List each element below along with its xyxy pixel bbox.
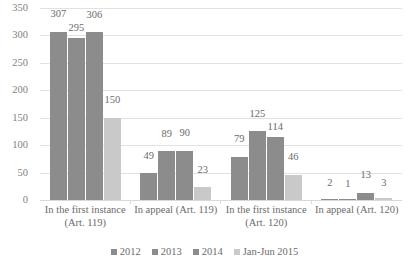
bar-slot: 3 [375,8,392,200]
bar-2014[interactable] [357,193,374,200]
legend-item-jan-jun-2015[interactable]: Jan-Jun 2015 [234,247,299,258]
x-axis-label-1: In appeal (Art. 119) [131,204,222,234]
bar-value-label: 306 [86,10,102,21]
bar-value-label: 1 [345,179,350,190]
bar-group: 49899023 [131,8,222,200]
legend-swatch-icon [111,249,117,255]
y-axis-tick-250: 250 [0,58,28,69]
bar-2013[interactable] [68,38,85,200]
legend-label: Jan-Jun 2015 [243,247,299,258]
bar-2014[interactable] [86,32,103,200]
bar-slot: 23 [194,8,211,200]
bar-jan-jun-2015[interactable] [285,175,302,200]
plot-area: 350300250200150100500 307295306150498990… [40,8,402,200]
bar-slot: 46 [285,8,302,200]
y-axis-tick-200: 200 [0,85,28,96]
x-axis-label-0: In the first instance (Art. 119) [40,204,131,234]
bar-group: 307295306150 [40,8,131,200]
legend-item-2013[interactable]: 2013 [152,247,182,258]
y-axis-tick-350: 350 [0,3,28,14]
bar-value-label: 46 [288,152,299,163]
bar-slot: 295 [68,8,85,200]
bar-2012[interactable] [231,157,248,200]
bar-slot: 2 [321,8,338,200]
bar-value-label: 89 [162,129,173,140]
bar-jan-jun-2015[interactable] [104,118,121,200]
bar-value-label: 125 [249,109,265,120]
legend-item-2012[interactable]: 2012 [111,247,141,258]
legend-swatch-icon [152,249,158,255]
bar-group: 21133 [312,8,403,200]
chart-legend: 201220132014Jan-Jun 2015 [0,247,409,258]
bar-slot: 114 [267,8,284,200]
bar-jan-jun-2015[interactable] [194,187,211,200]
bar-jan-jun-2015[interactable] [375,198,392,200]
bar-slot: 1 [339,8,356,200]
bar-groups: 30729530615049899023791251144621133 [40,8,402,200]
bar-slot: 13 [357,8,374,200]
bar-value-label: 307 [50,9,66,20]
legend-label: 2013 [161,247,182,258]
y-axis-tick-150: 150 [0,113,28,124]
bar-value-label: 49 [144,151,155,162]
gridline-0 [40,200,402,201]
bar-2014[interactable] [176,151,193,200]
bar-2013[interactable] [158,151,175,200]
bar-value-label: 295 [68,23,84,34]
bar-value-label: 23 [198,165,209,176]
bar-slot: 49 [140,8,157,200]
legend-label: 2014 [202,247,223,258]
bar-2012[interactable] [140,173,157,200]
legend-label: 2012 [120,247,141,258]
legend-item-2014[interactable]: 2014 [193,247,223,258]
bar-value-label: 114 [268,122,283,133]
bar-value-label: 79 [234,134,245,145]
bar-value-label: 90 [180,128,191,139]
bar-2013[interactable] [249,131,266,200]
y-axis-tick-300: 300 [0,30,28,41]
bar-2012[interactable] [50,32,67,200]
bar-slot: 306 [86,8,103,200]
grouped-bar-chart: 350300250200150100500 307295306150498990… [0,0,409,268]
bar-2013[interactable] [339,199,356,200]
y-axis-tick-100: 100 [0,140,28,151]
legend-swatch-icon [193,249,199,255]
legend-swatch-icon [234,249,240,255]
bar-slot: 150 [104,8,121,200]
bar-slot: 79 [231,8,248,200]
bar-2014[interactable] [267,137,284,200]
bar-slot: 89 [158,8,175,200]
x-axis-category-labels: In the first instance (Art. 119)In appea… [40,204,402,234]
bar-2012[interactable] [321,199,338,200]
y-axis-tick-0: 0 [0,195,28,206]
bar-value-label: 3 [381,178,386,189]
bar-value-label: 150 [104,95,120,106]
x-axis-label-2: In the first instance (Art. 120) [221,204,312,234]
bar-slot: 125 [249,8,266,200]
x-axis-label-3: In appeal (Art. 120) [312,204,403,234]
bar-group: 7912511446 [221,8,312,200]
bar-slot: 307 [50,8,67,200]
y-axis-tick-50: 50 [0,168,28,179]
bar-slot: 90 [176,8,193,200]
bar-value-label: 2 [327,178,332,189]
bar-value-label: 13 [361,170,372,181]
